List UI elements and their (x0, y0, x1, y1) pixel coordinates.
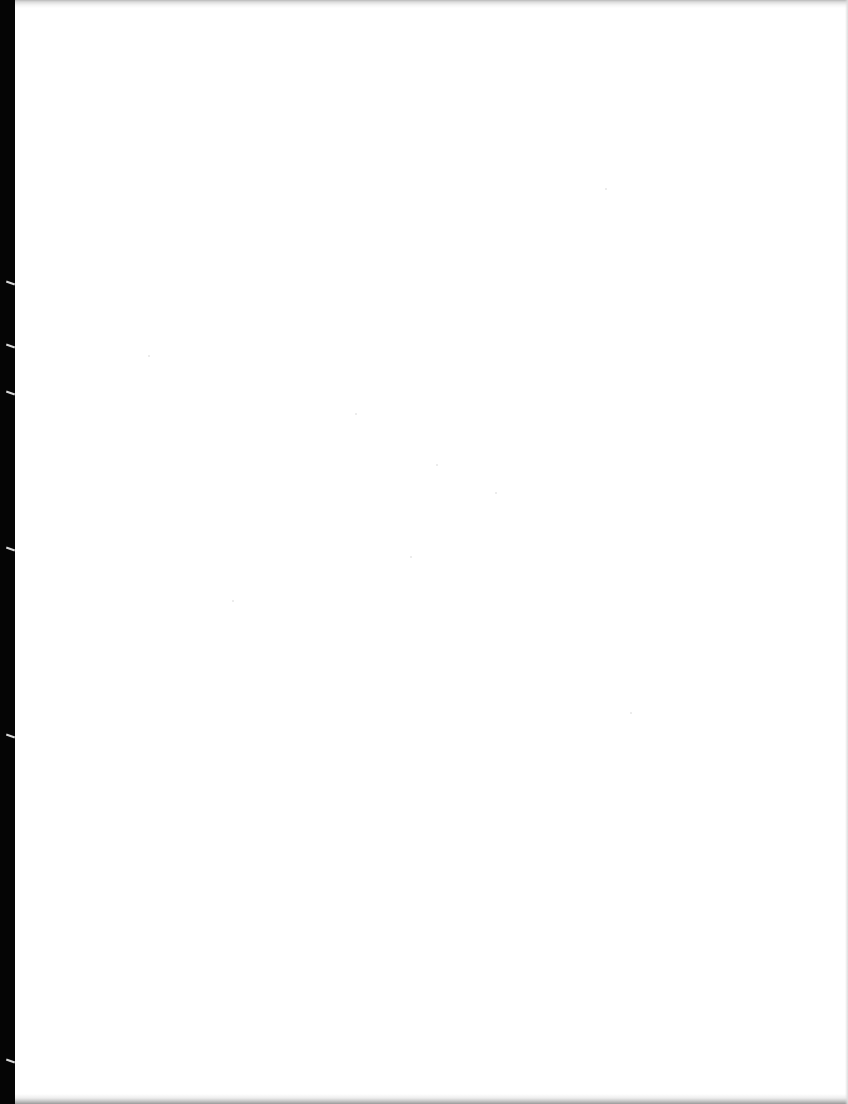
top-scan-shadow (15, 0, 848, 8)
edge-mark (6, 734, 15, 739)
scan-speck (495, 492, 497, 494)
scan-speck (410, 556, 412, 558)
edge-mark (6, 391, 15, 396)
scan-speck (630, 712, 632, 714)
scan-speck (148, 355, 150, 357)
edge-mark (6, 1059, 15, 1064)
edge-mark (6, 547, 15, 552)
scan-speck (605, 188, 607, 190)
scan-speck (232, 600, 234, 602)
edge-mark (6, 281, 15, 286)
scan-speck (436, 464, 438, 466)
bottom-scan-shadow (15, 1094, 848, 1104)
scan-speck (355, 413, 357, 415)
scanned-page (0, 0, 848, 1104)
page-body (60, 60, 788, 1044)
binding-edge (0, 0, 15, 1104)
edge-mark (6, 344, 15, 349)
